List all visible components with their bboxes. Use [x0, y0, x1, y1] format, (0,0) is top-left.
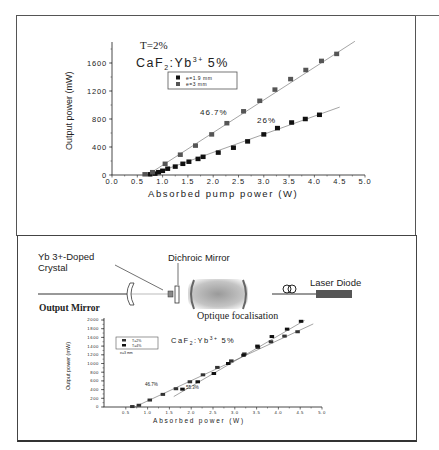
x-tick-label: 4.0	[308, 177, 321, 186]
top-annotation-transmission: T=2%	[140, 39, 168, 51]
data-point	[270, 335, 275, 338]
top-y-axis-label: Output power (mW)	[64, 71, 74, 150]
data-point	[289, 120, 294, 125]
data-point	[245, 139, 250, 144]
data-point	[178, 152, 183, 157]
y-tick-label: 0	[96, 404, 99, 409]
data-point	[269, 340, 274, 343]
bottom-x-axis-label: Absorbed power (W)	[153, 417, 245, 425]
data-point	[261, 132, 266, 137]
data-point	[180, 388, 185, 391]
bottom-y-axis-label: Output power (mW)	[65, 342, 71, 390]
x-tick-label: 4.0	[275, 410, 283, 415]
bottom-legend-label-1: T=2%	[132, 339, 141, 343]
bottom-chart-axes: 0.51.01.52.02.53.03.54.04.55.00200400600…	[87, 317, 326, 415]
bottom-chart-data-points	[130, 320, 303, 408]
top-x-axis-label: Absorbed pump power (W)	[148, 188, 298, 199]
data-point	[216, 150, 221, 155]
x-tick-label: 4.5	[296, 410, 304, 415]
label-optique-focalisation: Optique focalisation	[197, 310, 278, 321]
fit-line	[150, 107, 340, 175]
data-point	[215, 366, 220, 369]
data-point	[173, 164, 178, 169]
data-point	[231, 145, 236, 150]
x-tick-label: 3.0	[257, 177, 270, 186]
data-point	[288, 77, 293, 82]
data-point	[241, 109, 246, 114]
top-slope-label-2: 26%	[257, 116, 276, 125]
y-tick-label: 1800	[87, 326, 99, 331]
top-chart-axes: 0.00.51.01.52.02.53.03.54.04.55.00400800…	[87, 42, 371, 186]
x-tick-label: 4.5	[333, 177, 346, 186]
bottom-legend-note: e=3 mm	[120, 351, 133, 355]
data-point	[275, 126, 280, 131]
x-tick-label: 3.0	[231, 410, 239, 415]
data-point	[148, 399, 153, 402]
yb-crystal-icon	[168, 291, 173, 297]
data-point	[319, 59, 324, 64]
data-point	[272, 87, 277, 92]
y-tick-label: 400	[92, 143, 107, 152]
y-tick-label: 1000	[87, 361, 99, 366]
data-point	[201, 155, 206, 160]
data-point	[299, 320, 304, 323]
data-point	[295, 330, 300, 333]
data-point	[282, 335, 287, 338]
y-tick-label: 800	[92, 115, 107, 124]
data-point	[163, 162, 168, 167]
data-point	[209, 132, 214, 137]
data-point	[142, 172, 147, 177]
x-tick-label: 0.5	[122, 410, 130, 415]
top-chart: 0.00.51.01.52.02.53.03.54.04.55.00400800…	[64, 39, 371, 199]
y-tick-label: 2000	[87, 317, 99, 322]
bottom-legend: T=2% T=4% e=3 mm	[116, 337, 158, 355]
x-tick-label: 2.0	[187, 410, 195, 415]
label-dichroic-mirror: Dichroic Mirror	[168, 252, 230, 263]
laser-setup-schematic: Yb 3+-Doped Crystal Dichroic Mirror Lase…	[38, 251, 361, 321]
data-point	[212, 372, 217, 375]
x-tick-label: 2.5	[209, 410, 217, 415]
data-point	[150, 170, 155, 175]
y-tick-label: 200	[90, 396, 99, 401]
y-tick-label: 1400	[87, 344, 99, 349]
data-point	[193, 143, 198, 148]
bottom-slope-label-2: 55.3%	[186, 385, 199, 390]
top-legend-label-2: e=3 mm	[186, 81, 207, 87]
laser-diode-icon	[316, 290, 352, 298]
data-point	[285, 328, 290, 331]
x-tick-label: 3.5	[253, 410, 261, 415]
figure-canvas: 0.00.51.01.52.02.53.03.54.04.55.00400800…	[0, 0, 439, 450]
x-tick-label: 2.0	[207, 177, 220, 186]
crystal-pointer-arrow	[115, 265, 163, 290]
x-tick-label: 3.5	[283, 177, 296, 186]
data-point	[180, 162, 185, 167]
y-tick-label: 1600	[87, 335, 99, 340]
data-point	[255, 345, 259, 348]
x-tick-label: 1.0	[144, 410, 152, 415]
top-annotation-material: CaF2:Yb3+5%	[136, 56, 229, 71]
x-tick-label: 5.0	[318, 410, 326, 415]
data-point	[161, 393, 166, 396]
x-tick-label: 2.5	[232, 177, 245, 186]
x-tick-label: 1.0	[156, 177, 169, 186]
data-point	[303, 117, 308, 122]
bottom-annotation-material: CaF2:Yb3+5%	[171, 335, 235, 346]
data-point	[224, 121, 229, 126]
data-point	[174, 387, 179, 390]
top-slope-label-1: 46.7%	[200, 108, 228, 117]
bottom-chart: 0.51.01.52.02.53.03.54.04.55.00200400600…	[65, 317, 326, 425]
y-tick-label: 1200	[87, 87, 107, 96]
data-point	[186, 159, 191, 164]
data-point	[303, 68, 308, 73]
data-point	[137, 404, 142, 407]
y-tick-label: 400	[90, 387, 99, 392]
data-point	[229, 359, 234, 362]
data-point	[195, 380, 200, 383]
data-point	[257, 99, 262, 104]
bottom-legend-label-2: T=4%	[132, 344, 141, 348]
focusing-optics-housing	[188, 279, 248, 309]
bottom-slope-label-1: 46.7%	[145, 382, 158, 387]
data-point	[201, 373, 206, 376]
data-point	[130, 405, 135, 408]
data-point	[334, 52, 339, 57]
